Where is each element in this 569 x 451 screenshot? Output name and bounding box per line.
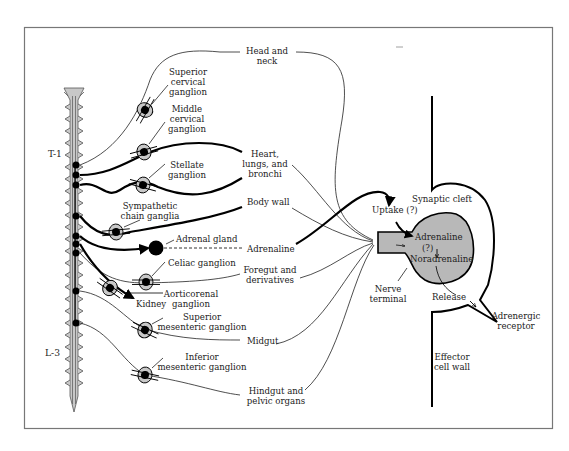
sympathetic-nervous-system-diagram: Superiorcervicalganglion Middlecervicalg… [0, 0, 569, 451]
adrenaline-uptake-arrow [296, 192, 389, 244]
ganglion-superior-mesenteric-icon [129, 317, 161, 343]
postganglionic-fibres [276, 52, 374, 390]
svg-text:Adrenal gland: Adrenal gland [175, 234, 238, 244]
ganglion-celiac-icon [132, 274, 160, 290]
svg-text:(?): (?) [422, 243, 433, 253]
svg-text:Stellateganglion: Stellateganglion [168, 160, 206, 180]
svg-text:Noradrenaline: Noradrenaline [410, 254, 473, 264]
svg-text:Release: Release [432, 292, 466, 302]
svg-text:Middlecervicalganglion: Middlecervicalganglion [168, 104, 206, 134]
svg-text:Head andneck: Head andneck [246, 46, 289, 66]
svg-text:Sympatheticchain ganglia: Sympatheticchain ganglia [121, 201, 180, 221]
ganglion-aorticorenal-icon [94, 273, 126, 302]
ganglion-inferior-mesenteric-icon [130, 364, 161, 385]
adrenal-gland-icon [149, 241, 164, 256]
target-labels: Head andneck Heart,lungs, andbronchi Bod… [242, 46, 305, 406]
svg-text:Celiac ganglion: Celiac ganglion [168, 258, 236, 268]
svg-text:Superiormesenteric ganglion: Superiormesenteric ganglion [157, 312, 247, 332]
nerve-pathways [80, 51, 242, 395]
svg-text:Adrenaline: Adrenaline [414, 232, 463, 242]
svg-text:Foregut andderivatives: Foregut andderivatives [243, 265, 297, 285]
svg-text:Inferiormesenteric ganglion: Inferiormesenteric ganglion [157, 352, 247, 372]
svg-text:Uptake (?): Uptake (?) [372, 205, 418, 215]
svg-text:Adrenergicreceptor: Adrenergicreceptor [491, 311, 541, 331]
svg-text:Synaptic cleft: Synaptic cleft [412, 194, 472, 204]
nerve-terminal-leader [398, 268, 407, 281]
svg-text:Adrenaline: Adrenaline [246, 244, 295, 254]
svg-text:Aorticorenalganglion: Aorticorenalganglion [163, 289, 219, 309]
svg-text:Kidney: Kidney [136, 299, 166, 309]
svg-text:Hindgut andpelvic organs: Hindgut andpelvic organs [247, 386, 305, 406]
spine-level-t1: T-1 [48, 148, 62, 159]
svg-text:Midgut: Midgut [247, 336, 279, 346]
svg-text:Heart,lungs, andbronchi: Heart,lungs, andbronchi [242, 149, 288, 179]
svg-text:Effectorcell wall: Effectorcell wall [434, 352, 470, 372]
spine-level-l3: L-3 [45, 347, 60, 358]
spinal-cord [64, 88, 84, 412]
ganglion-superior-cervical-icon [131, 94, 159, 126]
svg-text:Body wall: Body wall [247, 197, 290, 207]
figure-frame [25, 28, 553, 429]
svg-text:Nerveterminal: Nerveterminal [370, 284, 407, 304]
svg-text:Superiorcervicalganglion: Superiorcervicalganglion [169, 67, 208, 97]
